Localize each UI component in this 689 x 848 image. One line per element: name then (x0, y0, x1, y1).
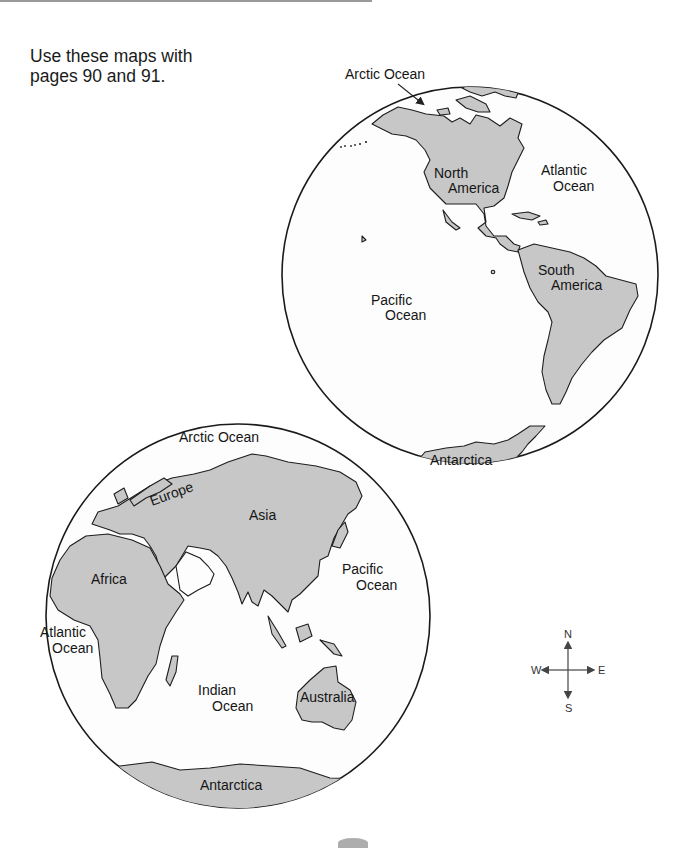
eastern-hemisphere-globe: Arctic Ocean Europe Asia Africa Pacific … (40, 424, 430, 830)
label-australia: Australia (300, 689, 355, 705)
label-south-america-1: South (538, 262, 575, 278)
label-pacific-ocean-east-1: Pacific (342, 561, 383, 577)
western-hemisphere-globe: North America Atlantic Ocean South Ameri… (282, 66, 658, 480)
label-indian-ocean-2: Ocean (212, 698, 253, 714)
label-antarctica-east: Antarctica (200, 777, 262, 793)
label-north-america-2: America (448, 180, 500, 196)
label-asia: Asia (249, 507, 276, 523)
label-arctic-ocean-east: Arctic Ocean (179, 429, 259, 445)
label-atlantic-ocean-2: Ocean (553, 178, 594, 194)
label-south-america-2: America (551, 277, 603, 293)
label-pacific-ocean-1: Pacific (371, 292, 412, 308)
compass-label-e: E (598, 664, 605, 676)
compass-label-s: S (565, 702, 572, 714)
label-indian-ocean-1: Indian (198, 682, 236, 698)
compass-rose: N S E W (531, 628, 605, 714)
label-pacific-ocean-east-2: Ocean (356, 577, 397, 593)
label-arctic-ocean-west: Arctic Ocean (345, 66, 425, 82)
antarctica-east-shape (40, 762, 420, 830)
label-atlantic-ocean-1: Atlantic (541, 162, 587, 178)
label-atlantic-ocean-east-1: Atlantic (40, 624, 86, 640)
compass-label-n: N (564, 628, 572, 640)
label-atlantic-ocean-east-2: Ocean (52, 640, 93, 656)
label-pacific-ocean-2: Ocean (385, 307, 426, 323)
label-africa: Africa (91, 571, 127, 587)
compass-label-w: W (531, 664, 542, 676)
page-edge-mark (338, 838, 368, 848)
label-antarctica-west: Antarctica (430, 452, 492, 468)
label-north-america-1: North (434, 165, 468, 181)
